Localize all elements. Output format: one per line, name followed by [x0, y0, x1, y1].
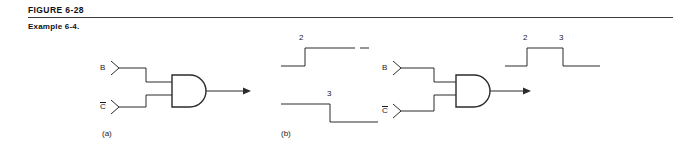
input-chevron-cnot-b — [393, 104, 401, 118]
waveform-input-b — [281, 48, 355, 66]
edge-number-output-fall: 3 — [559, 33, 563, 42]
waveform-output — [505, 48, 600, 66]
edge-number-input-cnot: 3 — [327, 89, 331, 98]
edge-number-output-rise: 2 — [523, 33, 527, 42]
and-gate-b — [456, 75, 490, 107]
waveform-input-cnot — [281, 104, 378, 122]
output-arrowhead-b — [523, 88, 531, 95]
edge-number-input-b: 2 — [299, 33, 303, 42]
input-chevron-b-b — [393, 61, 401, 75]
wire-cnot-to-gate-b — [401, 95, 456, 111]
figure-page: FIGURE 6-28 Example 6-4. B C (a) — [0, 0, 673, 161]
part-b-svg — [0, 0, 673, 161]
input-label-b-b: B — [382, 63, 387, 72]
input-label-cnot-b: C — [382, 106, 388, 115]
wire-b-to-gate-b — [401, 68, 456, 82]
part-label-b: (b) — [281, 129, 291, 138]
